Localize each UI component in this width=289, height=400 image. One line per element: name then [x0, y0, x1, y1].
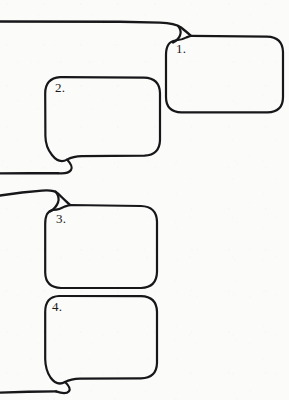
balloon-4-group[interactable] — [0, 296, 157, 393]
balloon-2-label: 2. — [55, 81, 65, 94]
balloon-artwork — [0, 0, 289, 400]
balloon-1-label: 1. — [176, 42, 186, 55]
balloon-4-label: 4. — [52, 300, 62, 313]
guide-line-top — [0, 22, 191, 36]
balloon-1-group[interactable] — [0, 22, 283, 113]
balloon-3-group[interactable] — [0, 190, 157, 288]
worksheet-page: 1. 2. 3. 4. — [0, 0, 289, 400]
balloon-2-group[interactable] — [0, 77, 160, 173]
balloon-3-label: 3. — [56, 212, 66, 225]
guide-line-bottom — [0, 391, 56, 392]
